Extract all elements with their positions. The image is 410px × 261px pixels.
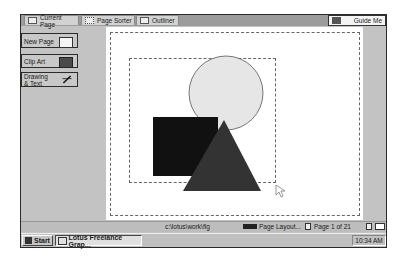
app-icon <box>58 237 67 245</box>
page-layout-button[interactable]: Page Layout... <box>259 223 301 230</box>
prev-page-button[interactable] <box>305 223 311 230</box>
file-path: c:\lotus\work\flg <box>165 223 210 230</box>
taskbar-app-lotus-freelance[interactable]: Lotus Freelance Grap... <box>55 235 142 246</box>
app-label: Lotus Freelance Grap... <box>69 234 141 248</box>
start-label: Start <box>34 237 50 244</box>
page-indicator: Page 1 of 21 <box>314 223 351 230</box>
view-toggle-icon[interactable] <box>375 223 385 230</box>
system-clock: 10:34 AM <box>352 235 386 246</box>
next-page-button[interactable] <box>366 223 372 230</box>
windows-logo-icon <box>25 237 32 244</box>
layout-icon <box>243 224 257 229</box>
clock-label: 10:34 AM <box>355 237 382 244</box>
status-bar: c:\lotus\work\flg Page Layout... Page 1 … <box>21 221 386 232</box>
mouse-cursor-icon <box>276 185 285 197</box>
start-button[interactable]: Start <box>22 235 53 246</box>
